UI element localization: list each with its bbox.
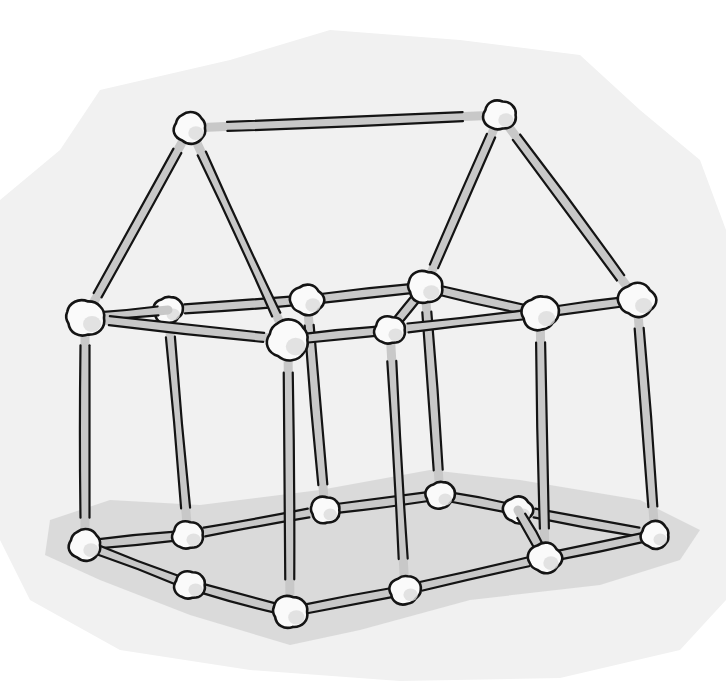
node-A bbox=[174, 112, 206, 144]
node-Q bbox=[174, 571, 205, 598]
house-frame-illustration bbox=[0, 0, 726, 681]
node-C bbox=[66, 300, 104, 336]
node-R bbox=[273, 596, 307, 628]
node-L bbox=[172, 521, 203, 548]
stick-C-K bbox=[80, 318, 90, 545]
node-K bbox=[69, 529, 101, 561]
node-M bbox=[311, 497, 340, 524]
stick-F-R bbox=[284, 340, 295, 612]
node-H bbox=[408, 271, 442, 303]
node-B bbox=[483, 100, 516, 129]
node-F bbox=[267, 319, 308, 360]
node-G bbox=[374, 316, 405, 343]
node-P bbox=[641, 521, 669, 549]
